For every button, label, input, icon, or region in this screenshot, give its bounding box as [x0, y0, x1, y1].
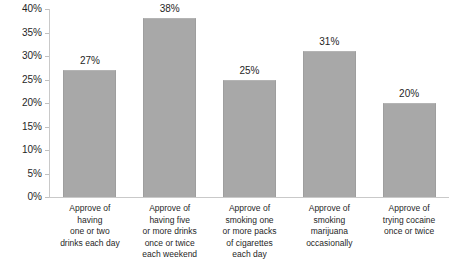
category-label-line: each weekend [126, 249, 214, 261]
y-axis-tick-mark [45, 127, 49, 128]
y-axis-tick-label: 0% [28, 191, 42, 202]
category-axis-labels: Approve ofhavingone or twodrinks each da… [50, 203, 449, 273]
bar-group[interactable]: 38% [143, 9, 196, 197]
bar[interactable] [223, 80, 276, 198]
bar-value-label: 31% [303, 36, 356, 47]
bar[interactable] [143, 18, 196, 197]
category-label-line: marijuana [285, 226, 373, 238]
y-axis-tick-mark [45, 9, 49, 10]
category-label-line: drinks each day [46, 238, 134, 250]
bar[interactable] [383, 103, 436, 197]
y-axis-tick-mark [45, 103, 49, 104]
category-label: Approve ofsmokingmarijuanaoccasionally [285, 203, 373, 249]
y-axis-tick-label: 5% [28, 168, 42, 179]
category-label-line: having [46, 215, 134, 227]
y-axis-tick-mark [45, 197, 49, 198]
category-label-line: Approve of [206, 203, 294, 215]
bar-value-label: 25% [223, 65, 276, 76]
y-axis-tick-mark [45, 56, 49, 57]
y-axis-tick-label: 35% [22, 27, 42, 38]
category-label-line: of cigarettes [206, 238, 294, 250]
x-axis-baseline [49, 197, 449, 198]
y-axis-tick-mark [45, 150, 49, 151]
category-label: Approve ofhavingone or twodrinks each da… [46, 203, 134, 249]
category-label-line: trying cocaine [365, 215, 453, 227]
bar[interactable] [63, 70, 116, 197]
category-label-line: once or twice [126, 238, 214, 250]
category-label-line: occasionally [285, 238, 373, 250]
category-label-line: smoking [285, 215, 373, 227]
y-axis-tick-label: 10% [22, 144, 42, 155]
bar-group[interactable]: 25% [223, 9, 276, 197]
category-label-line: each day [206, 249, 294, 261]
y-axis-tick-mark [45, 80, 49, 81]
category-label-line: smoking one [206, 215, 294, 227]
plot-area: 27%38%25%31%20% [50, 9, 449, 197]
category-label: Approve ofhaving fiveor more drinksonce … [126, 203, 214, 261]
category-label-line: one or two [46, 226, 134, 238]
bar[interactable] [303, 51, 356, 197]
bar-group[interactable]: 20% [383, 9, 436, 197]
category-label-line: Approve of [46, 203, 134, 215]
bar-value-label: 38% [143, 3, 196, 14]
y-axis-tick-label: 15% [22, 121, 42, 132]
category-label: Approve ofsmoking oneor more packsof cig… [206, 203, 294, 261]
bar-value-label: 27% [63, 55, 116, 66]
y-axis-tick-label: 30% [22, 50, 42, 61]
bar-group[interactable]: 31% [303, 9, 356, 197]
y-axis-tick-mark [45, 174, 49, 175]
category-label: Approve oftrying cocaineonce or twice [365, 203, 453, 238]
category-label-line: once or twice [365, 226, 453, 238]
category-label-line: Approve of [285, 203, 373, 215]
bar-group[interactable]: 27% [63, 9, 116, 197]
category-label-line: having five [126, 215, 214, 227]
y-axis-tick-label: 25% [22, 74, 42, 85]
category-label-line: Approve of [126, 203, 214, 215]
y-axis-tick-label: 40% [22, 3, 42, 14]
category-label-line: Approve of [365, 203, 453, 215]
category-label-line: or more drinks [126, 226, 214, 238]
bar-value-label: 20% [383, 88, 436, 99]
y-axis-tick-mark [45, 33, 49, 34]
category-label-line: or more packs [206, 226, 294, 238]
y-axis-tick-label: 20% [22, 97, 42, 108]
bar-chart: 0%5%10%15%20%25%30%35%40% 27%38%25%31%20… [0, 0, 476, 274]
